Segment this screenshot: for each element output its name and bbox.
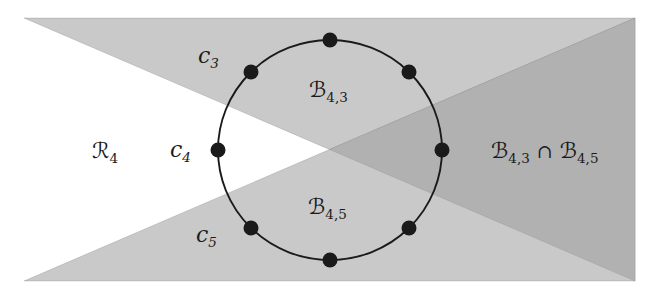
circle-point-upper-left [244, 65, 259, 80]
circle-point-lower-right [402, 221, 417, 236]
circle-point-bottom [323, 253, 338, 268]
circle-point-top [323, 33, 338, 48]
figure-canvas: ℛ4 c3 c4 c5 ℬ4,3 ℬ4,5 ℬ4,3∩ℬ4,5 [0, 0, 660, 294]
circle-point-left [211, 143, 226, 158]
circle-point-right [435, 143, 450, 158]
cone-intersection-diagram: ℛ4 c3 c4 c5 ℬ4,3 ℬ4,5 ℬ4,3∩ℬ4,5 [0, 0, 660, 294]
circle-point-lower-left [244, 221, 259, 236]
circle-point-upper-right [402, 65, 417, 80]
